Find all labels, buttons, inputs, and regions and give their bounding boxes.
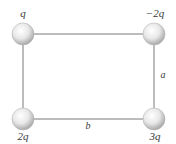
charge-sphere-top-right	[143, 23, 165, 45]
charge-sphere-bottom-left	[12, 108, 34, 130]
dimension-label-a: a	[161, 70, 166, 80]
charge-sphere-top-left	[12, 23, 34, 45]
charge-label-bottom-right: 3q	[150, 131, 161, 142]
charge-diagram: q −2q 2q 3q a b	[0, 0, 176, 144]
charge-label-top-left: q	[20, 8, 26, 19]
charge-label-top-right: −2q	[146, 8, 164, 19]
charge-label-bottom-left: 2q	[18, 131, 29, 142]
charge-sphere-bottom-right	[143, 108, 165, 130]
dimension-label-b: b	[86, 121, 91, 131]
